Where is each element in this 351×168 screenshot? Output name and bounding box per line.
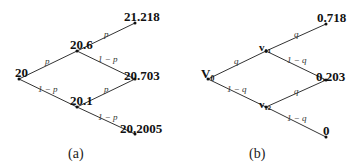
tree-a: 20 20.6 20.1 21.218 20.703 20.2005 p 1 −… [15,9,163,162]
edge-b-up-ud-label: 1 − q [287,55,307,65]
node-a-root-label: 20 [15,65,28,80]
tree-b: V₀ v₁₁ v₁₂ 0.718 0.203 0 q 1 − q q 1 − q… [201,10,347,162]
binomial-trees-figure: 20 20.6 20.1 21.218 20.703 20.2005 p 1 −… [0,0,351,168]
edge-a-root-up-label: p [44,56,50,66]
edge-a-root-down-label: 1 − p [38,84,58,94]
edge-b-up-uu-label: q [294,29,299,39]
caption-a: (a) [68,146,84,162]
node-b-uu-label: 0.718 [317,10,347,25]
edge-a-up-ud-label: 1 − p [98,54,118,64]
node-b-down-label: v₁₂ [259,98,272,110]
node-b-dd-label: 0 [323,123,330,138]
node-a-up-label: 20.6 [70,37,93,52]
node-a-ud-label: 20.703 [124,68,160,83]
node-a-uu-label: 21.218 [124,9,160,24]
edge-b-root-up-label: q [234,56,239,66]
node-b-root-label: V₀ [201,66,214,81]
node-b-up-label: v₁₁ [259,41,271,53]
edge-b-root-down-label: 1 − q [227,84,247,94]
edge-b-down-ud-label: q [294,86,299,96]
edge-a-down-dd-label: 1 − p [98,112,118,122]
caption-b: (b) [249,146,266,162]
node-b-ud-label: 0.203 [316,69,346,84]
edge-a-up-uu-label: p [103,29,109,39]
edge-b-down-dd-label: 1 − q [287,113,307,123]
node-a-down-label: 20.1 [70,93,93,108]
edge-a-down-ud-label: p [103,84,109,94]
node-a-dd-label: 20.2005 [120,121,163,136]
